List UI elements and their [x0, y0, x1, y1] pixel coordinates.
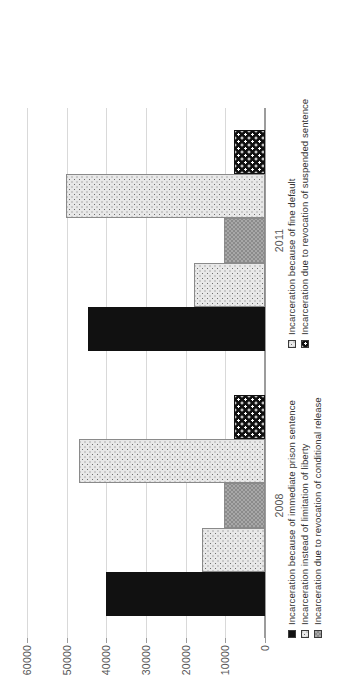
- axis-tick-50000: [67, 638, 68, 643]
- bar-2011-series-3[interactable]: [66, 174, 265, 218]
- legend-item-4[interactable]: Incarceration due to revocation of suspe…: [299, 72, 310, 348]
- axis-tick-label-60000: 60000: [21, 645, 33, 675]
- legend-label-2: Incarceration due to revocation of condi…: [312, 397, 323, 625]
- axis-tick-20000: [186, 638, 187, 643]
- axis-tick-label-40000: 40000: [100, 645, 112, 675]
- legend-swatch-icon-1: [301, 630, 309, 638]
- bar-2011-series-0[interactable]: [88, 307, 265, 351]
- bar-2008-series-0[interactable]: [106, 572, 265, 616]
- bar-2011-series-4[interactable]: [234, 130, 265, 174]
- axis-tick-label-30000: 30000: [140, 645, 152, 675]
- legend-swatch-icon-3: [288, 340, 296, 348]
- axis-tick-label-0: 0: [259, 645, 271, 651]
- legend-swatch-icon-0: [288, 630, 296, 638]
- legend-label-1: Incarceration instead of limitation of l…: [299, 444, 310, 625]
- axis-tick-label-10000: 10000: [219, 645, 231, 675]
- gridline-0: [265, 108, 266, 638]
- category-label-2008: 2008: [273, 493, 285, 517]
- axis-tick-40000: [106, 638, 107, 643]
- bar-2008-series-1[interactable]: [202, 528, 265, 572]
- axis-tick-30000: [146, 638, 147, 643]
- legend-item-3[interactable]: Incarceration because of fine default: [286, 72, 297, 348]
- bar-group-2008: 2008: [27, 373, 265, 638]
- legend-item-1[interactable]: Incarceration instead of limitation of l…: [299, 362, 310, 638]
- legend-label-0: Incarceration because of immediate priso…: [286, 400, 297, 625]
- bar-2011-series-1[interactable]: [194, 263, 265, 307]
- category-label-2011: 2011: [273, 229, 285, 252]
- chart-rotator: 010000200003000040000500006000020082011 …: [0, 0, 349, 700]
- axis-tick-0: [265, 638, 266, 643]
- axis-tick-label-50000: 50000: [61, 645, 73, 675]
- plot-area: 010000200003000040000500006000020082011: [27, 108, 265, 638]
- chart-legend: Incarceration because of immediate priso…: [286, 72, 323, 638]
- bar-2008-series-2[interactable]: [224, 483, 265, 527]
- legend-swatch-icon-2: [314, 630, 322, 638]
- legend-swatch-icon-4: [301, 340, 309, 348]
- legend-item-0[interactable]: Incarceration because of immediate priso…: [286, 362, 297, 638]
- legend-label-4: Incarceration due to revocation of suspe…: [299, 99, 310, 335]
- bar-2008-series-4[interactable]: [234, 395, 265, 439]
- bar-2011-series-2[interactable]: [224, 218, 265, 262]
- legend-item-2[interactable]: Incarceration due to revocation of condi…: [312, 362, 323, 638]
- bar-group-2011: 2011: [27, 108, 265, 373]
- axis-tick-10000: [225, 638, 226, 643]
- axis-tick-label-20000: 20000: [180, 645, 192, 675]
- bar-chart-figure: 010000200003000040000500006000020082011 …: [0, 0, 349, 700]
- bar-2008-series-3[interactable]: [79, 439, 265, 483]
- legend-label-3: Incarceration because of fine default: [286, 178, 297, 335]
- axis-tick-60000: [27, 638, 28, 643]
